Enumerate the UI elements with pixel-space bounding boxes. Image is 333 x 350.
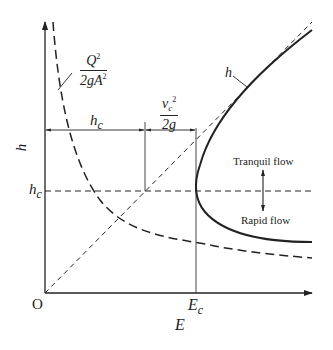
h-line-label: h (225, 66, 232, 80)
origin-label: O (32, 297, 43, 312)
kinetic-term-label: Q2 2gA2 (80, 53, 107, 87)
y-axis-label: h (14, 144, 29, 152)
x-axis-label: E (175, 317, 185, 333)
h-line-leader (233, 76, 247, 87)
specific-energy-diagram (0, 0, 333, 350)
hc-dimension-label: hc (90, 113, 103, 131)
hc-axis-label: hc (29, 182, 42, 200)
specific-energy-curve (196, 30, 312, 242)
Ec-label: Ec (188, 297, 203, 316)
tranquil-flow-label: Tranquil flow (233, 156, 293, 167)
velocity-head-label: vc2 2g (160, 96, 178, 132)
rapid-flow-label: Rapid flow (241, 215, 290, 226)
